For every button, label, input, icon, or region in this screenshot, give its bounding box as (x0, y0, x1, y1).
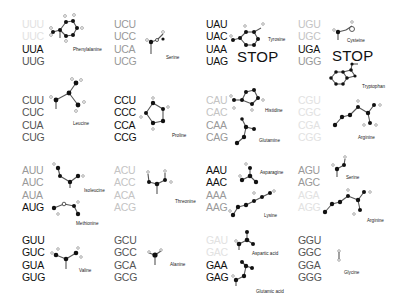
amino-acid-label: Cysteine (347, 38, 365, 43)
codon: GAG (206, 271, 228, 283)
codon-block-AA: AAU AAC AAA AAG (206, 164, 227, 214)
codon: GUC (22, 246, 45, 258)
stop-label: STOP (237, 48, 278, 65)
codon: AAA (206, 189, 227, 201)
amino-acid-label: Serine (166, 55, 179, 60)
histidine-molecule-icon (228, 80, 268, 115)
codon: CGG (298, 131, 321, 143)
amino-acid-label: Aspartic acid (252, 251, 278, 256)
codon-block-AU: AUU AUC AUA AUG (22, 164, 44, 214)
arginine-molecule-icon (320, 186, 382, 222)
isoleucine-molecule-icon (50, 160, 88, 190)
codon: GCU (114, 234, 137, 246)
codon: UCA (114, 43, 136, 55)
codon: GUU (22, 234, 45, 246)
codon: CCA (114, 119, 136, 131)
proline-molecule-icon (138, 95, 173, 135)
codon-block-CG: CGU CGC CGA CGG (298, 94, 321, 144)
codon: CGU (298, 94, 321, 106)
codon-block-AG: AGU AGC AGA AGG (298, 164, 320, 214)
codon: AGG (298, 201, 320, 213)
codon: UUA (22, 43, 44, 55)
codon: CCC (114, 106, 136, 118)
amino-acid-label: Serine (346, 175, 359, 180)
codon: CAG (206, 131, 228, 143)
codon-block-GC: GCU GCC GCA GCG (114, 234, 137, 284)
amino-acid-label: Lysine (264, 213, 277, 218)
codon: AGC (298, 176, 320, 188)
codon: CUG (22, 131, 44, 143)
arginine-molecule-icon (330, 95, 390, 133)
amino-acid-label: Leucine (73, 121, 89, 126)
codon: GUA (22, 259, 45, 271)
codon-block-GU: GUU GUC GUA GUG (22, 234, 45, 284)
aspartic-acid-molecule-icon (233, 228, 258, 253)
codon: UAA (206, 43, 228, 55)
glutamic-acid-molecule-icon (230, 258, 260, 290)
codon: CCG (114, 131, 136, 143)
codon: AUC (22, 176, 44, 188)
codon: GCA (114, 259, 137, 271)
codon-block-CU: CUU CUC CUA CUG (22, 94, 44, 144)
codon: ACC (114, 176, 136, 188)
codon-block-UA: UAU UAC UAA UAG (206, 18, 228, 68)
codon: UUU (22, 18, 44, 30)
codon: GAU (206, 234, 228, 246)
codon: CGA (298, 119, 321, 131)
amino-acid-label: Arginine (358, 135, 375, 140)
codon: GGG (298, 271, 322, 283)
amino-acid-label: Proline (172, 133, 186, 138)
codon: AUG (22, 201, 44, 213)
codon-block-CA: CAU CAC CAA CAG (206, 94, 228, 144)
codon-block-UC: UCU UCC UCA UCG (114, 18, 136, 68)
glycine-molecule-icon (334, 248, 344, 264)
codon: GAC (206, 246, 228, 258)
codon-block-AC: ACU ACC ACA ACG (114, 164, 136, 214)
codon: GAA (206, 259, 228, 271)
codon-block-UU: UUU UUC UUA UUG (22, 18, 44, 68)
codon: GUG (22, 271, 45, 283)
amino-acid-label: Glutamic acid (256, 289, 284, 294)
codon: GGC (298, 246, 322, 258)
codon: AGU (298, 164, 320, 176)
codon: GGU (298, 234, 322, 246)
codon-block-GG: GGU GGC GGA GGG (298, 234, 322, 284)
amino-acid-label: Tryptophan (362, 84, 385, 89)
amino-acid-label: Alanine (170, 262, 185, 267)
codon: UAG (206, 55, 228, 67)
amino-acid-label: Asparagine (260, 170, 283, 175)
leucine-molecule-icon (46, 75, 91, 115)
codon: UAU (206, 18, 228, 30)
codon-block-CC: CCU CCC CCA CCG (114, 94, 136, 144)
codon: CAC (206, 106, 228, 118)
codon: AGA (298, 189, 320, 201)
amino-acid-label: Methionine (76, 221, 98, 226)
threonine-molecule-icon (143, 168, 175, 198)
codon: CUC (22, 106, 44, 118)
amino-acid-label: Phenylalanine (73, 47, 102, 52)
amino-acid-label: Arginine (367, 218, 384, 223)
codon-block-GA: GAU GAC GAA GAG (206, 234, 228, 284)
codon: AAC (206, 176, 227, 188)
codon: GCG (114, 271, 137, 283)
codon: CUA (22, 119, 44, 131)
codon: ACU (114, 164, 136, 176)
codon: CAU (206, 94, 228, 106)
tyrosine-molecule-icon (228, 18, 268, 48)
codon: CAA (206, 119, 228, 131)
asparagine-molecule-icon (236, 160, 261, 190)
codon: ACA (114, 189, 136, 201)
codon: AUU (22, 164, 44, 176)
codon: GGA (298, 259, 322, 271)
serine-molecule-icon (143, 28, 168, 58)
amino-acid-label: Threonine (175, 199, 196, 204)
codon: UGU (298, 18, 321, 30)
glutamine-molecule-icon (232, 115, 262, 150)
amino-acid-label: Glycine (344, 270, 359, 275)
codon: UCC (114, 30, 136, 42)
codon: UGA (298, 43, 321, 55)
codon: UGC (298, 30, 321, 42)
codon: AUA (22, 189, 44, 201)
phenylalanine-molecule-icon (46, 10, 86, 45)
codon: AAU (206, 164, 227, 176)
